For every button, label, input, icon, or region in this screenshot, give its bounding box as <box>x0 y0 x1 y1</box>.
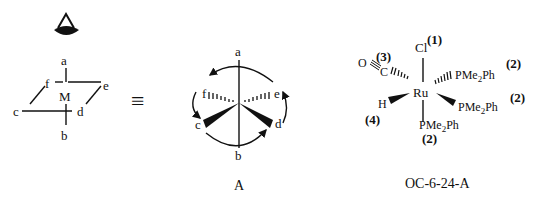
label-f: f <box>202 86 207 101</box>
label-b: b <box>235 148 242 163</box>
middle-projection: a b c d e f A <box>193 44 287 193</box>
hydride-label: H <box>378 97 387 111</box>
stereochemistry-diagram: a b c d e f M ≡ <box>0 0 537 205</box>
phosphine-upper: PMe2Ph <box>455 68 495 84</box>
wedge-d <box>239 103 273 128</box>
caption-a: A <box>234 178 245 193</box>
label-a: a <box>61 53 67 68</box>
wedge-c <box>203 103 239 128</box>
label-c: c <box>13 104 19 119</box>
carbonyl-priority: (3) <box>376 49 391 64</box>
ruthenium-complex: Cl (1) O (3) C Ru PMe2Ph (2) PMe2Ph (2) … <box>358 32 525 191</box>
label-c: c <box>195 117 201 132</box>
phosphine-lower: PMe2Ph <box>458 100 498 116</box>
equivalence-symbol: ≡ <box>131 88 145 114</box>
caption-configuration: OC-6-24-A <box>405 176 470 191</box>
hydride-priority: (4) <box>365 112 380 127</box>
label-d: d <box>77 104 84 119</box>
label-f: f <box>45 76 50 91</box>
phosphine-upper-priority: (2) <box>506 56 521 71</box>
carbonyl-oxygen: O <box>358 56 367 70</box>
phosphine-lower-priority: (2) <box>510 90 525 105</box>
label-e: e <box>274 86 280 101</box>
label-b: b <box>61 128 68 143</box>
carbonyl-carbon: C <box>380 65 388 79</box>
label-e: e <box>103 78 109 93</box>
label-a: a <box>235 44 241 59</box>
ruthenium-label: Ru <box>413 85 429 100</box>
label-metal: M <box>59 89 71 104</box>
eye-icon <box>54 14 79 35</box>
phosphine-bottom-priority: (2) <box>422 131 437 146</box>
chloride-priority: (1) <box>427 32 442 47</box>
left-octahedron: a b c d e f M <box>13 14 109 143</box>
label-d: d <box>275 116 282 131</box>
chloride-label: Cl <box>415 40 428 55</box>
